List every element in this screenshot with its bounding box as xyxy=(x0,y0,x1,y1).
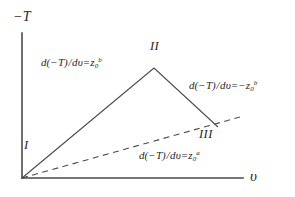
formula-right-rhs-sup: b xyxy=(254,79,258,87)
formula-right-denominator: dυ xyxy=(220,79,231,91)
region-label-iii: III xyxy=(199,128,213,141)
formula-bottom-rhs-sup: a xyxy=(196,149,200,157)
formula-bottom-denominator: dυ xyxy=(170,149,181,161)
y-axis-label: −T xyxy=(13,10,31,24)
formula-left-numerator: d(−T) xyxy=(41,56,68,68)
formula-left-denominator: dυ xyxy=(72,56,83,68)
x-axis-label: υ xyxy=(250,169,257,184)
slope-formula-bottom: d(−T)/dυ=z0a xyxy=(139,150,200,163)
region-label-i: I xyxy=(24,139,29,152)
formula-right-equals: =− xyxy=(231,79,246,91)
region-label-ii: II xyxy=(150,40,159,53)
slope-formula-left: d(−T)/dυ=z0b xyxy=(41,57,102,70)
slope-formula-right: d(−T)/dυ=−z0b xyxy=(189,80,257,93)
formula-right-numerator: d(−T) xyxy=(189,79,216,91)
formula-bottom-numerator: d(−T) xyxy=(139,149,166,161)
thermodynamic-diagram: −T υ I II III d(−T)/dυ=z0b d(−T)/dυ=−z0b… xyxy=(0,0,295,197)
formula-left-rhs-sup: b xyxy=(98,56,102,64)
